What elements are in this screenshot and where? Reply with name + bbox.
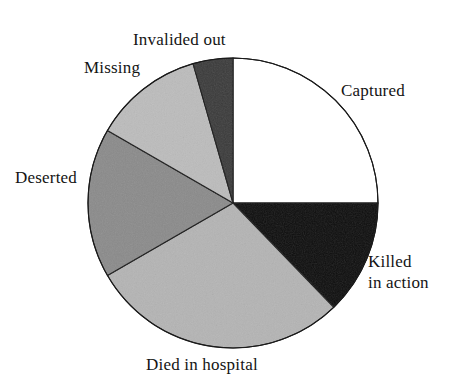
pie-chart-figure: Invalided out Missing Deserted Captured … bbox=[0, 0, 465, 386]
pie-label-killed-line-1: Killed bbox=[368, 251, 429, 272]
pie-chart-canvas bbox=[0, 0, 465, 386]
pie-label-killed-line-2: in action bbox=[368, 272, 429, 293]
pie-label-killed-in-action: Killed in action bbox=[368, 251, 429, 293]
pie-label-died-in-hospital: Died in hospital bbox=[146, 355, 258, 375]
pie-label-invalided-out: Invalided out bbox=[133, 30, 226, 50]
pie-label-captured: Captured bbox=[341, 81, 405, 101]
pie-slice-captured bbox=[233, 58, 378, 203]
pie-label-missing: Missing bbox=[84, 58, 140, 78]
pie-label-deserted: Deserted bbox=[15, 168, 77, 188]
